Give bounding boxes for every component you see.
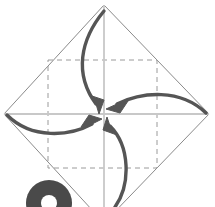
step-number-glyph	[26, 180, 72, 207]
origami-diagram-svg: Origami fold step: four corners to cente…	[0, 0, 215, 207]
paper-sheet-outline	[4, 5, 209, 207]
origami-diagram-canvas: Origami fold step: four corners to cente…	[0, 0, 215, 207]
